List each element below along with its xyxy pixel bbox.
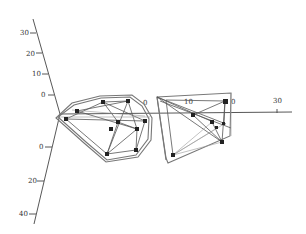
data-point [223, 99, 228, 104]
tick-label: 20 [28, 177, 37, 185]
data-point [126, 99, 130, 103]
tick-label: 20 [26, 50, 35, 58]
tick-label: 30 [273, 97, 282, 105]
data-point [64, 117, 68, 121]
tick-label: 0 [231, 98, 235, 106]
tick-label: 0 [41, 91, 45, 99]
data-point [134, 148, 138, 152]
tick-label: 40 [19, 210, 28, 218]
data-point [210, 120, 214, 124]
tick-label: 10 [184, 98, 193, 106]
data-point [105, 152, 109, 156]
data-point [143, 119, 147, 123]
tick-label: 30 [20, 29, 29, 37]
right-hull [157, 93, 231, 163]
tick-label: 0 [39, 143, 43, 151]
data-point [191, 113, 195, 117]
data-point [215, 126, 218, 129]
data-point [109, 127, 113, 131]
data-point [222, 122, 225, 125]
tick-label: 10 [32, 70, 41, 78]
data-point [171, 153, 175, 157]
data-point [135, 127, 139, 131]
3d-scatter-plot: 30 20 10 0 0 20 40 0 10 0 30 [0, 0, 306, 234]
left-hull [56, 95, 152, 162]
vertical-axis: 30 20 10 0 0 20 40 [19, 19, 60, 224]
data-point [75, 109, 79, 113]
data-point [220, 140, 224, 144]
data-point [116, 120, 120, 124]
data-point [101, 100, 105, 104]
